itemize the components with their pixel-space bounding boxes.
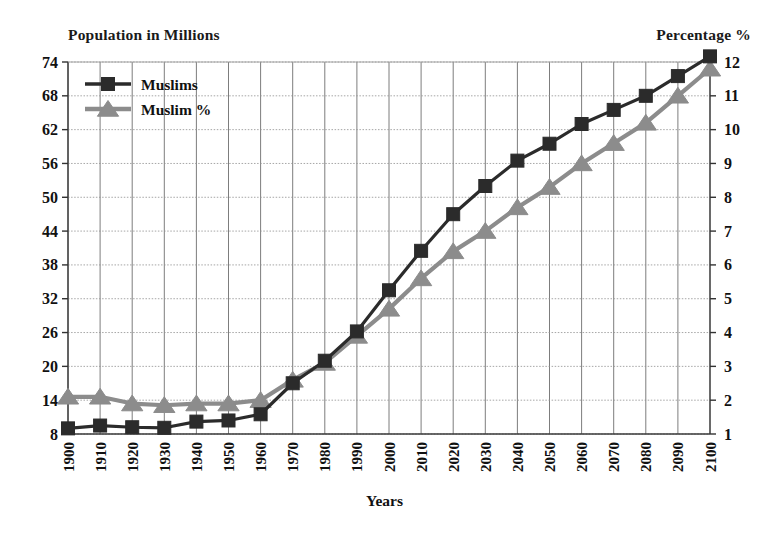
y-tick-label-right: 12 xyxy=(724,54,740,71)
x-tick-label: 2060 xyxy=(574,442,590,472)
data-point-marker xyxy=(222,414,235,427)
data-point-marker xyxy=(350,325,363,338)
y-tick-label-right: 5 xyxy=(724,290,732,307)
x-tick-label: 2040 xyxy=(510,442,526,472)
data-point-marker xyxy=(94,419,107,432)
x-tick-label: 2050 xyxy=(542,442,558,472)
data-point-marker xyxy=(671,70,684,83)
y-tick-label-left: 14 xyxy=(42,392,58,409)
chart-legend: MuslimsMuslim % xyxy=(85,76,211,118)
y-tick-label-right: 11 xyxy=(724,87,739,104)
y-tick-label-left: 50 xyxy=(42,189,58,206)
x-tick-label: 1920 xyxy=(125,442,141,472)
y-tick-label-right: 9 xyxy=(724,155,732,172)
x-tick-label: 2100 xyxy=(703,442,719,472)
data-point-marker xyxy=(575,118,588,131)
data-point-marker xyxy=(704,50,717,63)
data-point-marker xyxy=(543,137,556,150)
y-tick-label-left: 68 xyxy=(42,87,58,104)
data-point-marker xyxy=(511,154,524,167)
data-point-marker xyxy=(447,208,460,221)
x-tick-label: 1930 xyxy=(157,442,173,472)
x-tick-label: 2080 xyxy=(638,442,654,472)
x-tick-label: 2020 xyxy=(446,442,462,472)
data-point-marker xyxy=(190,415,203,428)
data-point-marker xyxy=(286,377,299,390)
y-tick-label-right: 7 xyxy=(724,223,732,240)
x-tick-label: 2010 xyxy=(414,442,430,472)
x-tick-label: 1900 xyxy=(61,442,77,472)
y-tick-label-right: 8 xyxy=(724,189,732,206)
data-point-marker xyxy=(102,78,115,91)
y-tick-label-right: 4 xyxy=(724,324,732,341)
data-point-marker xyxy=(126,421,139,434)
data-point-marker xyxy=(318,354,331,367)
x-tick-label: 1990 xyxy=(349,442,365,472)
data-point-marker xyxy=(383,284,396,297)
y-tick-label-left: 26 xyxy=(42,324,58,341)
x-tick-label: 2090 xyxy=(670,442,686,472)
x-tick-label: 2030 xyxy=(478,442,494,472)
y-tick-label-left: 44 xyxy=(42,223,58,240)
y-tick-label-left: 74 xyxy=(42,54,58,71)
x-tick-label: 1980 xyxy=(317,442,333,472)
data-point-marker xyxy=(639,89,652,102)
data-point-marker xyxy=(479,180,492,193)
data-point-marker xyxy=(415,244,428,257)
chart-page: Population in Millions Percentage % 8142… xyxy=(0,0,769,535)
data-point-marker xyxy=(158,421,171,434)
legend-label-muslim-percent: Muslim % xyxy=(141,101,211,118)
plot-area: 8142026323844505662687412345678910111219… xyxy=(0,0,769,535)
y-tick-label-right: 1 xyxy=(724,426,732,443)
legend-label-muslims: Muslims xyxy=(141,76,198,93)
y-tick-label-left: 56 xyxy=(42,155,58,172)
y-tick-label-right: 10 xyxy=(724,121,740,138)
y-tick-label-left: 8 xyxy=(50,426,58,443)
x-axis-title: Years xyxy=(0,492,769,510)
x-tick-label: 1960 xyxy=(253,442,269,472)
y-tick-label-right: 3 xyxy=(724,358,732,375)
data-point-marker xyxy=(607,103,620,116)
x-tick-label: 1970 xyxy=(285,442,301,472)
x-tick-label: 2000 xyxy=(382,442,398,472)
x-tick-label: 1950 xyxy=(221,442,237,472)
data-point-marker xyxy=(62,422,75,435)
y-tick-label-right: 6 xyxy=(724,256,732,273)
x-tick-label: 2070 xyxy=(606,442,622,472)
y-tick-label-left: 38 xyxy=(42,256,58,273)
y-tick-label-left: 20 xyxy=(42,358,58,375)
data-point-marker xyxy=(254,408,267,421)
x-tick-label: 1940 xyxy=(189,442,205,472)
line-chart-svg: 8142026323844505662687412345678910111219… xyxy=(0,0,769,535)
x-tick-label: 1910 xyxy=(93,442,109,472)
y-tick-label-right: 2 xyxy=(724,392,732,409)
y-tick-label-left: 62 xyxy=(42,121,58,138)
y-tick-label-left: 32 xyxy=(42,290,58,307)
